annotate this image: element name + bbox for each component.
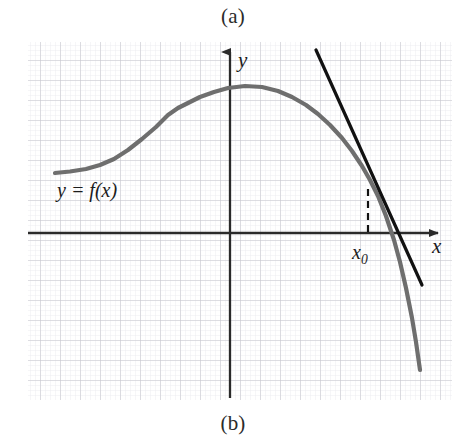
figure-container: (a) xyxy=(0,0,466,444)
panel-label-b: (b) xyxy=(0,411,466,436)
y-axis-label: y xyxy=(238,48,247,73)
x0-point-label: x0 xyxy=(352,241,368,268)
x0-subscript: 0 xyxy=(361,252,368,267)
x-axis-label: x xyxy=(432,234,441,259)
function-label: y = f(x) xyxy=(57,179,117,202)
plot-canvas xyxy=(0,0,466,444)
x0-base: x xyxy=(352,241,361,263)
